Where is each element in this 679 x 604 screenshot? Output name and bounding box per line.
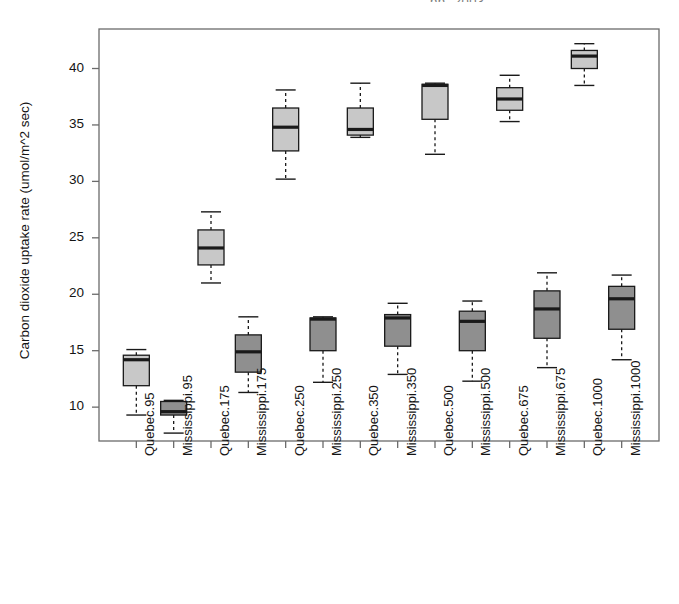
y-tick-label: 15	[51, 342, 84, 357]
x-tick-label: Mississippi.675	[553, 368, 568, 456]
x-tick-label: Quebec.250	[292, 385, 307, 456]
y-tick-label: 35	[51, 116, 84, 131]
boxplot-group-quebec-350	[347, 83, 373, 137]
x-tick-label: Mississippi.1000	[628, 361, 643, 456]
x-tick-label: Mississippi.250	[329, 368, 344, 456]
iqr-box	[235, 335, 261, 372]
boxplot-group-mississippi-1000	[609, 275, 635, 360]
x-tick-label: Mississippi.175	[254, 368, 269, 456]
iqr-box	[310, 318, 336, 351]
boxplot-group-mississippi-350	[385, 303, 411, 374]
boxplot-group-mississippi-675	[534, 273, 560, 368]
boxplot-figure: pp. 2003 Carbon dioxide uptake rate (umo…	[0, 0, 679, 604]
iqr-box	[534, 291, 560, 338]
iqr-box	[459, 311, 485, 351]
y-tick-label: 20	[51, 285, 84, 300]
y-tick-label: 30	[51, 172, 84, 187]
y-tick-label: 10	[51, 398, 84, 413]
iqr-box	[273, 108, 299, 151]
x-tick-label: Quebec.175	[217, 385, 232, 456]
boxplot-group-quebec-175	[198, 212, 224, 283]
boxplot-group-quebec-500	[422, 83, 448, 154]
iqr-box	[571, 50, 597, 68]
y-tick-label: 25	[51, 229, 84, 244]
iqr-box	[609, 286, 635, 329]
x-tick-label: Mississippi.350	[404, 368, 419, 456]
iqr-box	[422, 84, 448, 119]
x-tick-label: Quebec.675	[516, 385, 531, 456]
x-tick-label: Mississippi.95	[180, 375, 195, 456]
plot-canvas	[0, 0, 679, 604]
x-tick-label: Quebec.350	[366, 385, 381, 456]
boxplot-group-quebec-1000	[571, 44, 597, 86]
x-tick-label: Quebec.500	[441, 385, 456, 456]
y-tick-label: 40	[51, 60, 84, 75]
x-tick-label: Mississippi.500	[478, 368, 493, 456]
x-tick-label: Quebec.95	[142, 392, 157, 456]
boxplot-group-quebec-675	[497, 75, 523, 121]
boxplot-group-quebec-250	[273, 90, 299, 179]
x-tick-label: Quebec.1000	[590, 378, 605, 456]
